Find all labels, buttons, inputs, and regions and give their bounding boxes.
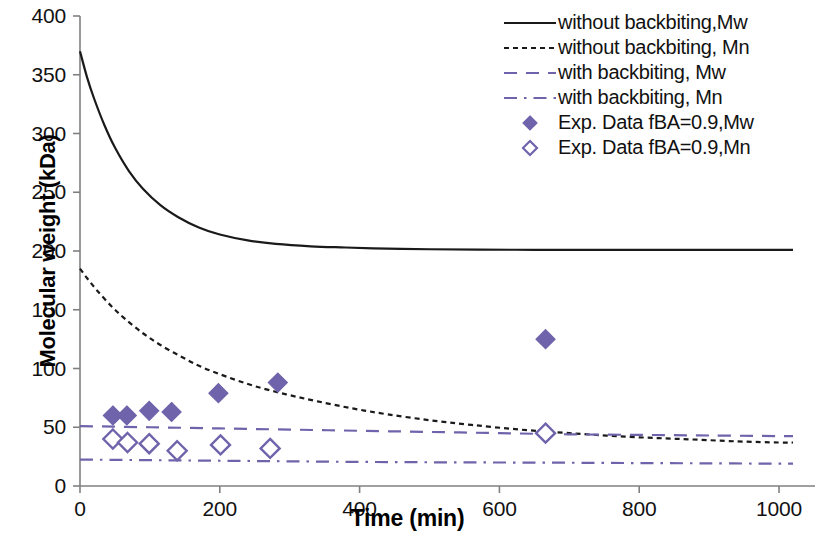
data-point-mn [536, 424, 555, 443]
data-point-mw [117, 406, 136, 425]
data-point-mn [211, 435, 230, 454]
legend-item-label: without backbiting,Mw [558, 11, 747, 34]
data-point-mw [140, 401, 159, 420]
legend-item: without backbiting, Mn [502, 35, 812, 60]
data-point-mw [209, 384, 228, 403]
legend-item: without backbiting,Mw [502, 10, 812, 35]
series-line [80, 426, 793, 436]
legend-item-label: Exp. Data fBA=0.9,Mn [558, 136, 750, 159]
series-line [80, 269, 793, 443]
data-point-mw [536, 330, 555, 349]
legend-marker-sample [502, 112, 558, 134]
legend-open-diamond-icon [523, 141, 537, 155]
data-point-mn [168, 441, 187, 460]
legend-item: with backbiting, Mw [502, 60, 812, 85]
y-tick-label: 400 [0, 4, 66, 28]
y-axis-title: Molecular weight (kDa) [35, 51, 61, 451]
scatter-markers [103, 330, 555, 461]
data-point-mn [140, 434, 159, 453]
legend-item-label: without backbiting, Mn [558, 36, 749, 59]
legend-line-sample [502, 87, 558, 109]
legend-line-sample [502, 62, 558, 84]
chart-figure: 400350300250200150100500 020040060080010… [0, 0, 815, 538]
data-point-mw [268, 373, 287, 392]
y-tick-label: 0 [0, 474, 66, 498]
legend-item-label: with backbiting, Mn [558, 86, 722, 109]
chart-legend: without backbiting,Mwwithout backbiting,… [502, 10, 812, 160]
legend-line-sample [502, 12, 558, 34]
legend-item: Exp. Data fBA=0.9,Mw [502, 110, 812, 135]
legend-item: with backbiting, Mn [502, 85, 812, 110]
legend-item-label: with backbiting, Mw [558, 61, 726, 84]
data-point-mw [162, 402, 181, 421]
legend-item: Exp. Data fBA=0.9,Mn [502, 135, 812, 160]
series-line [80, 460, 793, 464]
data-point-mn [261, 439, 280, 458]
legend-filled-diamond-icon [523, 116, 537, 130]
legend-item-label: Exp. Data fBA=0.9,Mw [558, 111, 754, 134]
legend-line-sample [502, 37, 558, 59]
legend-marker-sample [502, 137, 558, 159]
x-axis-title: Time (min) [0, 505, 815, 532]
